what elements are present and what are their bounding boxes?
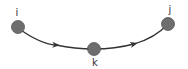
node-k xyxy=(88,43,101,56)
node-j xyxy=(162,18,175,31)
node-label-k: k xyxy=(92,57,98,68)
node-label-i: i xyxy=(16,7,19,18)
graph-diagram: i k j xyxy=(0,0,188,69)
node-label-j: j xyxy=(168,4,172,15)
node-i xyxy=(12,21,25,34)
